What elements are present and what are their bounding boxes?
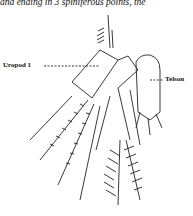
uropod-telson-illustration [0,0,193,216]
label-telson: Telson [165,75,184,83]
label-uropod-1: Uropod 1 [3,61,31,69]
